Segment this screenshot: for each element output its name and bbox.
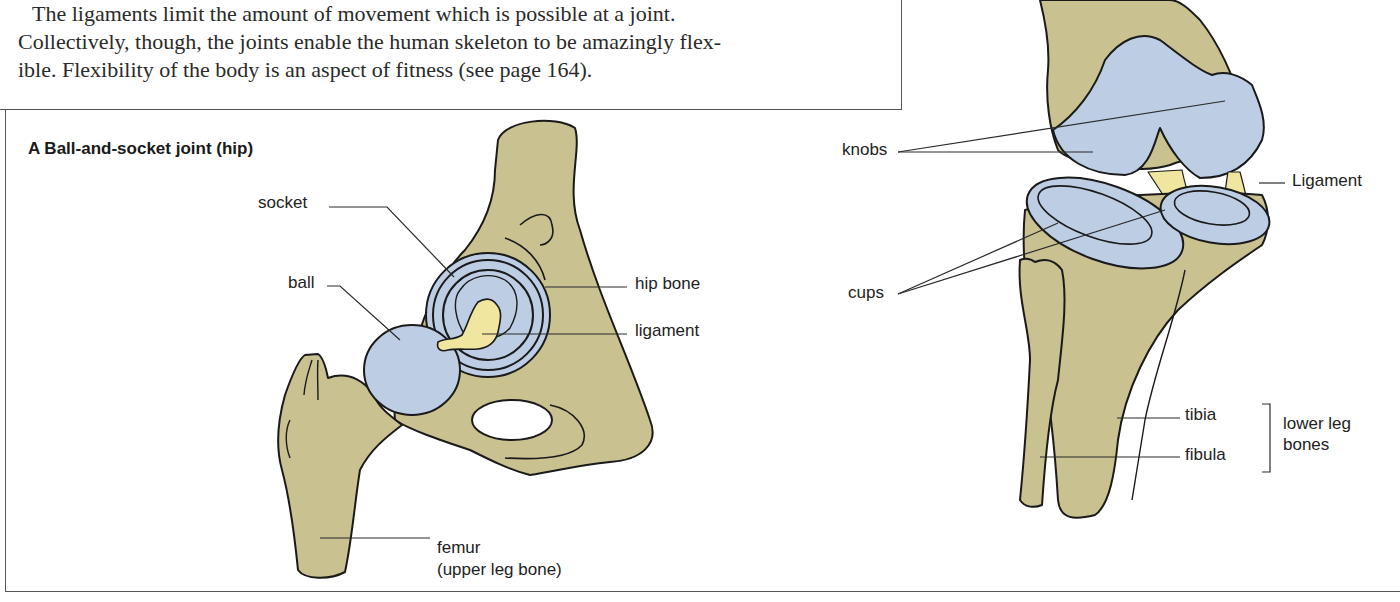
label-femur: femur	[437, 538, 480, 558]
label-knobs: knobs	[842, 140, 887, 160]
hip-joint-illustration	[278, 121, 653, 578]
ball-shape	[364, 325, 460, 415]
knee-joint-illustration	[1015, 0, 1274, 518]
label-socket: socket	[258, 193, 307, 213]
label-ligament: ligament	[635, 321, 699, 341]
label-tibia: tibia	[1185, 405, 1216, 425]
label-ball: ball	[288, 273, 314, 293]
hip-bone-hole	[472, 400, 552, 440]
label-hip-bone: hip bone	[635, 274, 700, 294]
label-femur-note: (upper leg bone)	[437, 560, 562, 580]
label-cups: cups	[848, 283, 884, 303]
label-bones: bones	[1283, 435, 1329, 455]
figure-a-title: A Ball-and-socket joint (hip)	[28, 139, 253, 159]
label-lower-leg: lower leg	[1283, 414, 1351, 434]
label-fibula: fibula	[1185, 445, 1226, 465]
label-knee-ligament: Ligament	[1292, 171, 1362, 191]
